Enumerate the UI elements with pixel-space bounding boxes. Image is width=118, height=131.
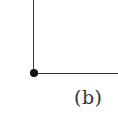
horizontal-line <box>34 73 118 74</box>
figure-caption: (b) <box>74 86 103 108</box>
corner-point <box>30 69 38 77</box>
vertical-line <box>33 0 34 73</box>
